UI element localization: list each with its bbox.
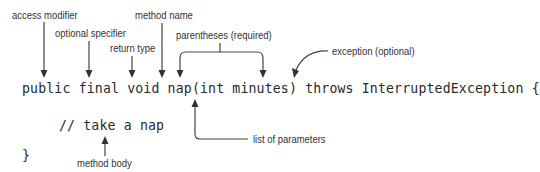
- method-body-label: method body: [77, 157, 132, 169]
- access-modifier-label: access modifier: [12, 9, 78, 21]
- method-body-comment: // take a nap: [59, 118, 164, 134]
- parentheses-bracket-arrow: [180, 43, 263, 70]
- parameters-label: list of parameters: [253, 133, 326, 145]
- optional-specifier-label: optional specifier: [55, 27, 126, 39]
- parameters-arrow: [195, 107, 248, 139]
- parentheses-label: parentheses (required): [176, 29, 272, 41]
- exception-label: exception (optional): [332, 45, 415, 57]
- closing-brace: }: [22, 148, 30, 164]
- method-signature-code: public final void nap(int minutes) throw…: [22, 81, 540, 97]
- exception-arrow: [296, 51, 328, 70]
- return-type-label: return type: [110, 42, 155, 54]
- method-name-label: method name: [135, 9, 193, 21]
